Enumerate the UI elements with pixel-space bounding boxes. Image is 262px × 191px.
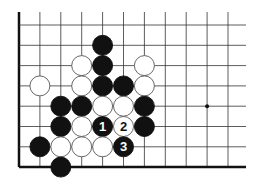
white-stone — [93, 137, 113, 157]
stone-disc — [134, 96, 154, 116]
stone-disc — [72, 117, 92, 137]
white-stone — [72, 137, 92, 157]
white-stone — [134, 76, 154, 96]
stone-disc — [51, 96, 71, 116]
black-stone — [51, 117, 71, 137]
black-stone — [93, 56, 113, 76]
stone-disc — [134, 76, 154, 96]
stone-disc — [51, 137, 71, 157]
star-point — [205, 104, 209, 108]
black-stone — [72, 96, 92, 116]
white-stone — [72, 117, 92, 137]
stone-disc — [30, 76, 50, 96]
stone-disc — [51, 157, 71, 177]
black-stone — [93, 35, 113, 55]
black-stone — [51, 157, 71, 177]
stone-disc — [134, 56, 154, 76]
white-stone — [51, 137, 71, 157]
move-number-label: 1 — [99, 119, 106, 134]
stone-disc — [72, 76, 92, 96]
star-points — [205, 104, 209, 108]
stone-disc — [93, 56, 113, 76]
black-stone — [134, 117, 154, 137]
white-stone — [72, 56, 92, 76]
black-stone: 1 — [93, 117, 113, 137]
stone-disc — [93, 35, 113, 55]
black-stone — [30, 137, 50, 157]
stone-disc — [51, 117, 71, 137]
move-number-label: 3 — [120, 139, 127, 154]
stone-disc — [93, 137, 113, 157]
black-stone — [134, 96, 154, 116]
stone-disc — [72, 96, 92, 116]
stone-disc — [72, 56, 92, 76]
white-stone — [30, 76, 50, 96]
stone-disc — [93, 96, 113, 116]
stone-disc — [134, 117, 154, 137]
white-stone — [93, 96, 113, 116]
white-stone — [114, 96, 134, 116]
stone-disc — [114, 76, 134, 96]
go-board-diagram: 123 — [0, 0, 262, 191]
white-stone: 2 — [114, 117, 134, 137]
stone-disc — [93, 76, 113, 96]
move-number-label: 2 — [120, 119, 127, 134]
black-stone — [93, 76, 113, 96]
black-stone: 3 — [114, 137, 134, 157]
white-stone — [72, 76, 92, 96]
stone-disc — [30, 137, 50, 157]
stone-disc — [72, 137, 92, 157]
black-stone — [51, 96, 71, 116]
white-stone — [134, 56, 154, 76]
black-stone — [114, 76, 134, 96]
stone-disc — [114, 96, 134, 116]
